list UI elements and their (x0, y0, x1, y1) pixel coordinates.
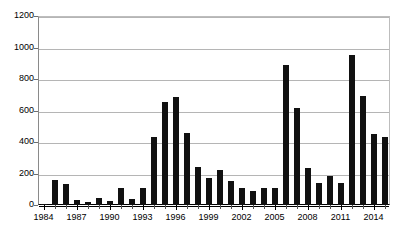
x-axis-tick (319, 205, 320, 209)
bar (327, 176, 333, 205)
x-axis-tick (253, 205, 254, 209)
x-axis-tick-label: 2014 (363, 212, 383, 223)
x-axis-tick-label: 1996 (165, 212, 185, 223)
y-axis-tick-label: 1000 (0, 43, 34, 52)
x-axis-tick (198, 205, 199, 209)
x-axis-tick-label: 1999 (198, 212, 218, 223)
x-axis-tick (143, 205, 144, 210)
x-axis-tick (44, 205, 45, 210)
y-axis-tick-label: 800 (0, 74, 34, 83)
x-axis-labels: 1984198719901993199619992002200520082011… (0, 212, 403, 228)
bar (239, 188, 245, 205)
y-axis-labels: 020040060080010001200 (0, 0, 34, 245)
bar (118, 188, 124, 205)
bar (151, 137, 157, 205)
x-axis-tick (330, 205, 331, 209)
x-axis-tick-label: 2011 (331, 212, 350, 223)
x-axis-tick (187, 205, 188, 209)
x-axis-tick (341, 205, 342, 210)
bar (294, 108, 300, 205)
bar (360, 96, 366, 205)
bar (316, 183, 322, 205)
x-axis-tick (132, 205, 133, 209)
x-axis-tick (231, 205, 232, 209)
y-axis-tick-label: 1200 (0, 11, 34, 20)
bar (272, 188, 278, 205)
x-axis-tick (55, 205, 56, 209)
y-axis-tick-label: 200 (0, 169, 34, 178)
x-axis-tick-label: 2008 (297, 212, 317, 223)
bar (371, 134, 377, 205)
bar (217, 170, 223, 205)
x-axis-tick (275, 205, 276, 210)
bar (305, 168, 311, 205)
x-axis-tick-label: 1987 (66, 212, 86, 223)
bar-chart: 020040060080010001200 198419871990199319… (0, 0, 403, 245)
bar (184, 133, 190, 205)
bar (250, 191, 256, 205)
bars-layer (38, 16, 390, 205)
x-axis-tick (264, 205, 265, 209)
x-axis-tick (297, 205, 298, 209)
x-axis-tick (209, 205, 210, 210)
bar (261, 188, 267, 205)
x-axis-tick (176, 205, 177, 210)
bar (63, 184, 69, 205)
x-axis-tick (385, 205, 386, 209)
x-axis-tick-label: 1984 (33, 212, 53, 223)
x-axis-tick (77, 205, 78, 210)
x-axis-tick (110, 205, 111, 210)
x-axis-tick-label: 2002 (231, 212, 251, 223)
x-axis-tick (352, 205, 353, 209)
bar (162, 102, 168, 205)
x-axis-tick (220, 205, 221, 209)
bar (206, 178, 212, 205)
y-axis-tick-label: 600 (0, 106, 34, 115)
bar (283, 65, 289, 205)
bar (52, 180, 58, 205)
x-axis-tick-label: 2005 (264, 212, 284, 223)
bar (140, 188, 146, 205)
x-axis-tick (242, 205, 243, 210)
bar (173, 97, 179, 205)
x-axis-tick-label: 1990 (99, 212, 119, 223)
x-axis-tick (66, 205, 67, 209)
bar (195, 167, 201, 205)
x-axis-tick (363, 205, 364, 209)
y-axis-tick-label: 400 (0, 137, 34, 146)
bar (96, 198, 102, 205)
x-axis-tick-label: 1993 (132, 212, 152, 223)
bar (338, 183, 344, 205)
x-axis-tick (308, 205, 309, 210)
x-axis-tick (165, 205, 166, 209)
y-axis-tick-label: 0 (0, 200, 34, 209)
x-axis-tick-marks (38, 205, 390, 210)
x-axis-tick (154, 205, 155, 209)
bar (349, 55, 355, 205)
bar (382, 137, 388, 205)
x-axis-tick (286, 205, 287, 209)
bar (228, 181, 234, 205)
x-axis-tick (99, 205, 100, 209)
x-axis-tick (374, 205, 375, 210)
x-axis-tick (121, 205, 122, 209)
x-axis-tick (88, 205, 89, 209)
